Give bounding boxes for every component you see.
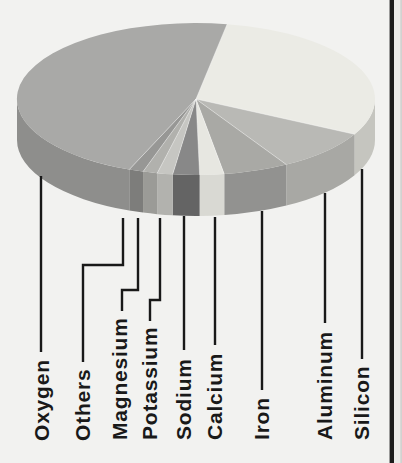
slice-label-magnesium: Magnesium bbox=[108, 317, 131, 440]
pie-slice-side-potassium bbox=[157, 173, 173, 215]
slice-label-calcium: Calcium bbox=[203, 353, 226, 440]
slice-label-iron: Iron bbox=[250, 397, 273, 440]
slice-label-silicon: Silicon bbox=[350, 366, 373, 440]
pie-slice-side-others bbox=[129, 170, 143, 213]
slice-label-oxygen: Oxygen bbox=[30, 359, 53, 441]
slice-label-aluminum: Aluminum bbox=[313, 331, 336, 440]
pie-slice-side-calcium bbox=[200, 174, 225, 216]
figure-canvas: OxygenOthersMagnesiumPotassiumSodiumCalc… bbox=[0, 0, 402, 463]
page-border-line bbox=[390, 0, 394, 463]
slice-label-sodium: Sodium bbox=[172, 358, 195, 440]
leader-line-potassium bbox=[150, 218, 160, 321]
slice-label-potassium: Potassium bbox=[138, 327, 161, 440]
pie-3d bbox=[17, 23, 375, 216]
pie-slice-side-sodium bbox=[173, 174, 200, 216]
slice-label-others: Others bbox=[71, 369, 94, 442]
slice-labels: OxygenOthersMagnesiumPotassiumSodiumCalc… bbox=[30, 317, 373, 441]
page-edge bbox=[390, 0, 402, 463]
leader-line-magnesium bbox=[122, 218, 138, 311]
pie-slice-side-magnesium bbox=[143, 172, 157, 215]
pie-chart-figure: OxygenOthersMagnesiumPotassiumSodiumCalc… bbox=[0, 0, 402, 463]
